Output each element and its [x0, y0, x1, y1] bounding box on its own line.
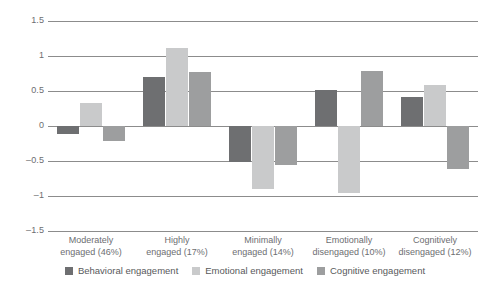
bar: [143, 77, 165, 126]
bar: [401, 97, 423, 126]
bar: [80, 103, 102, 126]
bar-group: [392, 21, 478, 231]
gridline--1-5: [48, 231, 478, 232]
y-tick-label: 1: [4, 51, 44, 60]
legend-label: Cognitive engagement: [330, 266, 425, 276]
chart-legend: Behavioral engagementEmotional engagemen…: [0, 266, 490, 276]
y-axis: 1.510.50–0.5–1–1.5: [0, 21, 44, 231]
plot-area: [48, 21, 478, 231]
x-tick-label: Minimallyengaged (14%): [220, 234, 306, 258]
bar-group: [48, 21, 134, 231]
x-tick-label: Emotionallydisengaged (10%): [306, 234, 392, 258]
y-tick-label: 0.5: [4, 86, 44, 95]
y-tick-label: –0.5: [4, 156, 44, 165]
y-tick-label: 0: [4, 121, 44, 130]
bar: [57, 126, 79, 134]
bar: [338, 126, 360, 193]
bar-group: [134, 21, 220, 231]
legend-item: Emotional engagement: [192, 266, 303, 276]
bar-group: [220, 21, 306, 231]
x-tick-label: Moderatelyengaged (46%): [48, 234, 134, 258]
y-tick-label: –1: [4, 191, 44, 200]
legend-item: Cognitive engagement: [317, 266, 425, 276]
bar: [189, 72, 211, 126]
bar: [447, 126, 469, 169]
legend-swatch-icon: [65, 267, 73, 275]
legend-label: Behavioral engagement: [78, 266, 178, 276]
bar-chart: 1.510.50–0.5–1–1.5 Moderatelyengaged (46…: [0, 0, 490, 293]
bar: [166, 48, 188, 126]
bar: [275, 126, 297, 165]
x-tick-label: Highlyengaged (17%): [134, 234, 220, 258]
legend-swatch-icon: [317, 267, 325, 275]
legend-item: Behavioral engagement: [65, 266, 178, 276]
x-tick-label: Cognitivelydisengaged (12%): [392, 234, 478, 258]
y-tick-label: 1.5: [4, 16, 44, 25]
bar: [229, 126, 251, 162]
x-axis-labels: Moderatelyengaged (46%)Highlyengaged (17…: [48, 234, 478, 262]
bar-group: [306, 21, 392, 231]
bar: [361, 71, 383, 126]
bar: [103, 126, 125, 141]
y-tick-label: –1.5: [4, 226, 44, 235]
legend-swatch-icon: [192, 267, 200, 275]
bar: [252, 126, 274, 189]
legend-label: Emotional engagement: [205, 266, 303, 276]
bar: [424, 85, 446, 126]
bar: [315, 90, 337, 126]
